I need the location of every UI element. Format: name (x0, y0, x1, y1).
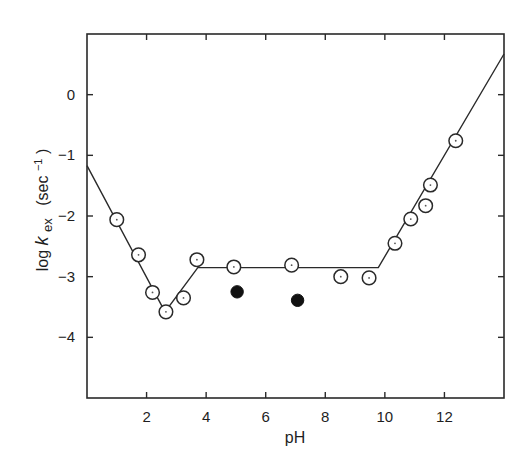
x-axis-label: pH (285, 429, 305, 446)
point-center-dot (340, 276, 342, 278)
x-tick-label: 4 (202, 408, 210, 425)
x-tick-label: 10 (377, 408, 394, 425)
y-axis-label-subscript: ex (40, 218, 55, 232)
point-center-dot (233, 266, 235, 268)
y-tick-label: −2 (58, 207, 75, 224)
x-tick-label: 8 (321, 408, 329, 425)
y-axis-label-unit: (sec (34, 176, 51, 206)
point-center-dot (455, 140, 457, 142)
y-tick-label: −4 (58, 328, 75, 345)
y-axis-label-log: log (34, 245, 51, 271)
filled-circle-point (231, 286, 243, 298)
point-center-dot (196, 259, 198, 261)
point-center-dot (152, 292, 154, 294)
y-axis-label-unit-close: ) (34, 149, 51, 154)
point-center-dot (138, 254, 140, 256)
plot-frame (87, 34, 504, 398)
y-axis-label: log k ex (sec −1 ) (28, 149, 55, 271)
point-center-dot (425, 205, 427, 207)
y-tick-labels: 0−1−2−3−4 (58, 86, 75, 346)
fit-line (87, 54, 504, 312)
y-axis-label-unit-exponent: −1 (32, 159, 44, 172)
x-tick-label: 6 (262, 408, 270, 425)
x-tick-label: 12 (436, 408, 453, 425)
point-center-dot (368, 277, 370, 279)
y-tick-label: 0 (67, 86, 75, 103)
point-center-dot (183, 297, 185, 299)
filled-circle-point (291, 294, 303, 306)
axis-ticks (87, 34, 504, 398)
point-center-dot (291, 264, 293, 266)
chart: 24681012 0−1−2−3−4 pH log k ex (sec −1 ) (0, 0, 530, 467)
point-center-dot (394, 242, 396, 244)
point-center-dot (410, 218, 412, 220)
y-tick-label: −3 (58, 268, 75, 285)
point-center-dot (165, 311, 167, 313)
y-axis-label-k: k (32, 235, 52, 245)
point-center-dot (116, 219, 118, 221)
y-tick-label: −1 (58, 146, 75, 163)
x-tick-labels: 24681012 (142, 408, 452, 425)
data-points (110, 134, 463, 319)
point-center-dot (430, 184, 432, 186)
fit-polyline (87, 54, 504, 312)
x-tick-label: 2 (142, 408, 150, 425)
